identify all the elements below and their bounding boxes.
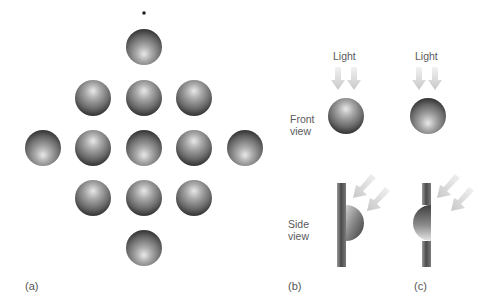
sphere-lit-from-top xyxy=(75,130,111,166)
sphere-lit-from-bottom xyxy=(126,130,162,166)
side-view-cavity xyxy=(413,205,431,241)
light-arrows-side-b xyxy=(353,174,390,211)
panel-c xyxy=(410,67,474,267)
light-label-b: Light xyxy=(333,50,356,62)
sphere-grid xyxy=(25,29,263,266)
sphere-lit-from-bottom xyxy=(25,130,61,166)
panel-label-c: (c) xyxy=(414,280,427,292)
light-arrows-front-c xyxy=(412,67,442,90)
panel-a xyxy=(25,11,263,266)
light-label-c: Light xyxy=(415,50,438,62)
sphere-lit-from-top xyxy=(176,130,212,166)
light-arrows-front-b xyxy=(331,67,361,90)
sphere-lit-from-top xyxy=(75,180,111,216)
sphere-lit-from-bottom xyxy=(126,230,162,266)
shape-from-shading-figure xyxy=(0,0,484,305)
side-view-wall-b xyxy=(337,183,346,267)
panel-label-a: (a) xyxy=(25,280,38,292)
sphere-lit-from-top xyxy=(75,80,111,116)
sphere-lit-from-top xyxy=(176,180,212,216)
panel-label-b: (b) xyxy=(288,280,301,292)
front-view-label: Front view xyxy=(290,113,315,137)
sphere-lit-from-bottom xyxy=(126,29,162,65)
front-view-cavity-sphere xyxy=(410,98,446,134)
sphere-lit-from-top xyxy=(126,80,162,116)
fixation-dot xyxy=(142,11,146,15)
sphere-lit-from-bottom xyxy=(227,130,263,166)
light-arrows-side-c xyxy=(437,174,474,211)
front-view-bump-sphere xyxy=(328,98,364,134)
sphere-lit-from-top xyxy=(126,180,162,216)
panel-b xyxy=(328,67,390,267)
side-view-label: Side view xyxy=(288,218,309,242)
sphere-lit-from-top xyxy=(176,80,212,116)
side-view-bump xyxy=(346,205,364,241)
